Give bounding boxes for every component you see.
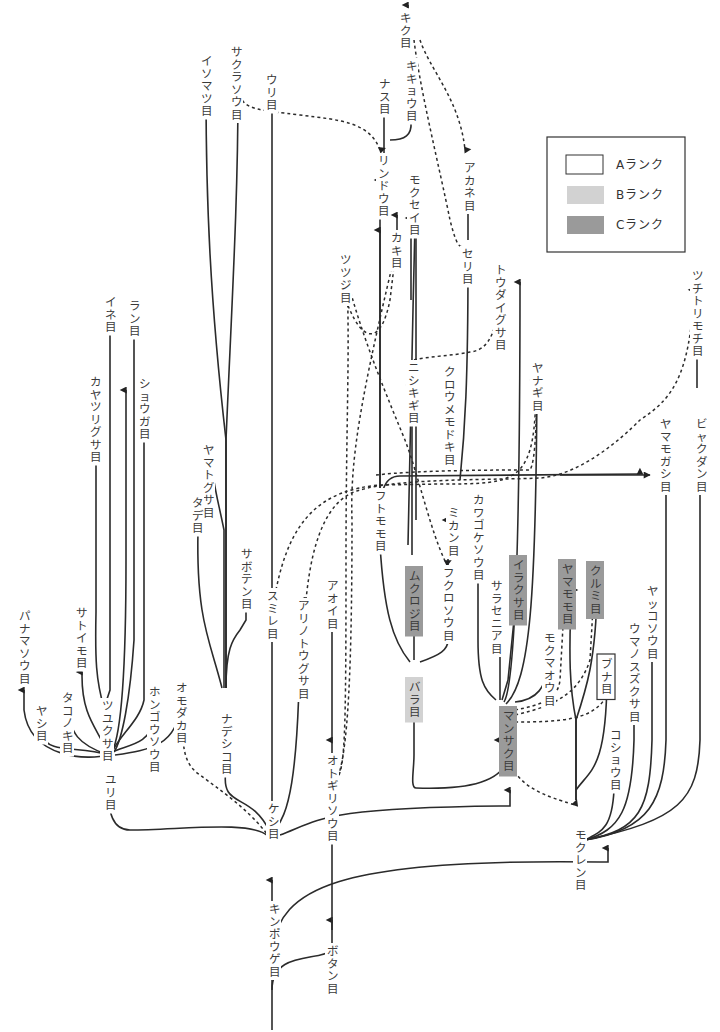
node-label-char: 目 — [391, 256, 402, 270]
legend-label-b: Bランク — [616, 188, 664, 202]
edge-arrow — [585, 605, 652, 840]
node-isomatsu: イソマツ目 — [199, 53, 213, 120]
node-kiku: キク目 — [398, 10, 412, 52]
node-label-char: 目 — [192, 521, 203, 535]
node-shouga: ショウガ目 — [137, 376, 151, 443]
edge-arrow — [114, 320, 134, 752]
node-label-char: 目 — [105, 798, 116, 812]
node-label-char: 目 — [105, 320, 116, 334]
node-buna: ブナ目 — [597, 654, 615, 700]
legend-swatch-a — [566, 155, 603, 174]
node-tsutsuji: ツツジ目 — [338, 252, 352, 306]
node-label-char: 目 — [491, 642, 502, 656]
edge-arrow — [346, 275, 446, 563]
node-label-char: 目 — [102, 749, 113, 763]
node-label-char: 目 — [267, 627, 278, 641]
edge-arrow — [420, 40, 465, 150]
node-mikan: ミカン目 — [446, 505, 460, 559]
node-label-char: 目 — [201, 104, 212, 118]
node-label-char: 目 — [241, 597, 252, 611]
node-aoi: アオイ目 — [325, 578, 339, 632]
node-label-char: 目 — [409, 705, 420, 719]
node-label-char: 目 — [444, 453, 455, 467]
node-label-char: 目 — [610, 778, 621, 792]
node-label-char: 目 — [513, 608, 524, 622]
edge-arrow — [414, 285, 500, 360]
node-label-char: 目 — [139, 427, 150, 441]
node-label-char: 目 — [532, 399, 543, 413]
node-label-char: 目 — [149, 760, 160, 774]
node-label-char: 目 — [473, 568, 484, 582]
node-label-char: 目 — [221, 762, 232, 776]
node-yamamomo: ヤマモモ目 — [558, 559, 576, 630]
edge-arrow — [104, 315, 110, 708]
node-label-char: 目 — [409, 619, 420, 633]
node-kurumi: クルミ目 — [586, 561, 604, 619]
node-sarasenia: サラセニア目 — [489, 578, 503, 657]
edge-arrow — [576, 590, 597, 800]
node-kinpouge: キンポウゲ目 — [267, 901, 281, 980]
node-rindou: リンドウ目 — [376, 153, 390, 220]
node-kuroumemodoki: クロウメモドキ目 — [442, 364, 456, 468]
node-tade: タデ目 — [190, 495, 204, 537]
node-satoimo: サトイモ目 — [74, 605, 88, 672]
node-mokusei: モクセイ目 — [407, 172, 421, 239]
edge-arrow — [346, 250, 396, 334]
node-label-char: 目 — [269, 965, 280, 979]
node-akane: アカネ目 — [462, 160, 476, 214]
node-kikyou: キキョウ目 — [404, 58, 418, 125]
edge-arrow — [272, 848, 608, 948]
node-futomomo: フトモモ目 — [373, 488, 387, 555]
node-byakudan: ビャクダン目 — [694, 416, 708, 495]
node-label-char: 目 — [327, 982, 338, 996]
node-yuri: ユリ目 — [103, 772, 117, 814]
edge-arrow — [511, 760, 575, 805]
node-label-char: 目 — [266, 98, 277, 112]
node-ine: イネ目 — [103, 294, 117, 336]
node-mansaku: マンサク目 — [499, 706, 517, 777]
node-label-char: 目 — [62, 741, 73, 755]
node-label-char: 目 — [400, 36, 411, 50]
node-sumire: スミレ目 — [265, 588, 279, 642]
node-label-char: 目 — [696, 480, 707, 494]
edge-arrow — [112, 390, 126, 752]
node-label-char: 目 — [129, 324, 140, 338]
node-label-char: 目 — [176, 731, 187, 745]
node-hongousou: ホンゴウソウ目 — [147, 684, 161, 776]
node-uri: ウリ目 — [264, 72, 278, 114]
edge-arrow — [280, 790, 510, 835]
node-mokuren: モクレン目 — [573, 827, 587, 894]
edge-arrow — [376, 390, 537, 475]
node-label-char: 目 — [448, 544, 459, 558]
node-label-char: 目 — [268, 827, 279, 841]
node-label-char: 目 — [462, 272, 473, 286]
node-label-char: 目 — [378, 204, 389, 218]
node-omodaka: オモダカ目 — [174, 680, 188, 747]
node-yakkosou: ヤッコソウ目 — [645, 583, 659, 662]
edge-arrow — [206, 90, 226, 688]
node-kaki: カキ目 — [389, 230, 403, 272]
node-label-char: 目 — [443, 629, 454, 643]
node-panamasou: パナマソウ目 — [17, 608, 31, 687]
node-arinotougusa: アリノトウグサ目 — [296, 598, 310, 702]
node-label-char: 目 — [406, 109, 417, 123]
node-label-char: 目 — [203, 506, 214, 520]
node-label-char: 目 — [562, 612, 573, 626]
node-label-char: 目 — [629, 710, 640, 724]
legend: Aランク Bランク Cランク — [547, 137, 685, 252]
node-nasu: ナス目 — [377, 76, 391, 118]
edge-arrow — [460, 265, 468, 480]
node-label-char: 目 — [590, 602, 601, 616]
edge-arrow — [585, 440, 700, 840]
node-takonoki: タコノキ目 — [60, 690, 74, 757]
legend-label-a: Aランク — [616, 158, 664, 172]
node-label-char: 目 — [408, 411, 419, 425]
node-saboten: サボテン目 — [239, 546, 253, 613]
node-otogirisou: オトギリソウ目 — [325, 753, 339, 845]
node-mukuroji: ムクロジ目 — [405, 566, 423, 637]
node-label-char: 目 — [231, 108, 242, 122]
node-nishikigi: ニシキギ目 — [406, 360, 420, 427]
node-label-char: 目 — [375, 539, 386, 553]
node-botan: ボタン目 — [325, 943, 339, 997]
node-umanosuzukusa: ウマノスズクサ目 — [627, 621, 641, 725]
